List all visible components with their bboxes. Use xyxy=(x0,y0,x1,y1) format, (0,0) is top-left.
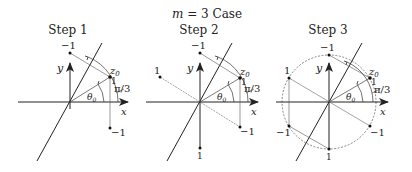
step-3-label: Step 3 xyxy=(308,23,347,37)
point-bottom xyxy=(199,147,202,150)
y-axis-label: y xyxy=(56,62,64,75)
panel-step-3: Step 3 −1 1 y z0 1 π/3 θ0 x −1 −1 1 xyxy=(276,23,390,162)
point-bottom xyxy=(328,148,331,151)
label-one-left: 1 xyxy=(284,65,290,76)
theta-arc-tick xyxy=(98,81,99,84)
diagram-canvas: m = 3 Case Step 1 −1 y z0 1 π/3 θ0 x −1 xyxy=(0,0,412,172)
figure-title: m = 3 Case xyxy=(172,7,242,21)
pi3-arc-arrow xyxy=(215,56,218,60)
pi3-arc-arrow xyxy=(85,56,88,60)
x-axis-label: x xyxy=(121,106,127,117)
panel-step-1: Step 1 −1 y z0 1 π/3 θ0 x −1 xyxy=(18,23,130,161)
x-axis-label: x xyxy=(251,106,257,117)
theta-arc xyxy=(98,84,104,102)
label-neg-one-top: −1 xyxy=(320,42,335,53)
label-theta0: θ0 xyxy=(346,92,355,103)
point-top xyxy=(328,54,331,57)
label-pi-over-3: π/3 xyxy=(244,83,260,94)
panel-step-2: Step 2 −1 1 y z0 1 π/3 θ0 x −1 1 xyxy=(146,23,260,161)
step-2-label: Step 2 xyxy=(179,23,218,37)
segment-bottom-left xyxy=(289,126,329,149)
point-top xyxy=(69,52,72,55)
segment-top xyxy=(200,53,240,78)
step-1-label: Step 1 xyxy=(48,23,87,37)
label-neg-one-bottom: −1 xyxy=(111,127,126,138)
label-one-bottom: 1 xyxy=(197,151,203,161)
point-left xyxy=(288,77,291,80)
y-axis-label: y xyxy=(315,62,323,75)
x-axis-label: x xyxy=(380,106,386,117)
label-one-left: 1 xyxy=(154,65,160,76)
label-theta0: θ0 xyxy=(87,92,96,103)
label-neg-one-top: −1 xyxy=(61,40,76,51)
label-pi-over-3: π/3 xyxy=(114,83,130,94)
theta-arc xyxy=(357,84,363,102)
label-neg-one-left: −1 xyxy=(276,127,291,138)
theta-arc-tick xyxy=(228,81,229,84)
segment-top xyxy=(70,53,110,77)
label-neg-one-bottom: −1 xyxy=(240,126,255,137)
segment-top xyxy=(329,55,370,78)
label-neg-one-right: −1 xyxy=(370,127,385,138)
theta-arc xyxy=(228,84,234,102)
label-one-bottom: 1 xyxy=(326,152,332,162)
y-axis-label: y xyxy=(186,62,194,75)
label-pi-over-3: π/3 xyxy=(374,84,390,95)
label-neg-one-top: −1 xyxy=(191,40,206,51)
label-theta0: θ0 xyxy=(217,92,226,103)
point-top xyxy=(199,52,202,55)
theta-arc-tick xyxy=(357,81,358,84)
